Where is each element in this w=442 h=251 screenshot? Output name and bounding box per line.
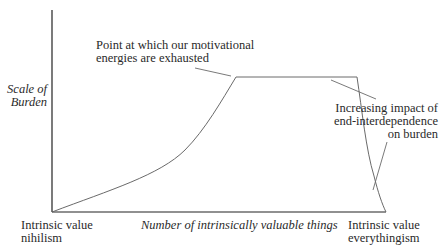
right-endpoint-line2: everythingism [348,232,420,245]
left-endpoint-label: Intrinsic value nihilism [21,219,93,245]
burden-curve [52,77,386,212]
decline-annotation-line3: on burden [330,128,438,141]
x-axis-label: Number of intrinsically valuable things [141,219,338,232]
decline-curve-pointer [373,142,387,190]
decline-annotation: Increasing impact of end-interdependence… [330,102,438,141]
peak-annotation-line2: energies are exhausted [96,52,254,65]
peak-leader-line [195,68,231,76]
y-axis-label: Scale of Burden [3,83,47,109]
y-axis-label-line2: Burden [3,96,47,109]
decline-leader-line [331,80,376,99]
right-endpoint-label: Intrinsic value everythingism [348,219,420,245]
left-endpoint-line2: nihilism [21,232,93,245]
peak-annotation: Point at which our motivational energies… [96,39,254,65]
